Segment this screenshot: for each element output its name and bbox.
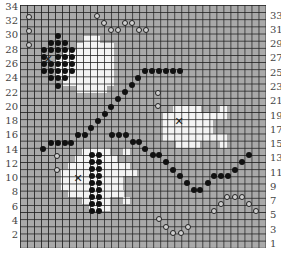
open-circle-marker xyxy=(178,230,184,236)
black-stone xyxy=(96,166,102,172)
x-mark-icon: ✕ xyxy=(175,117,184,126)
black-stone xyxy=(62,47,68,53)
right-row-label: 11 xyxy=(270,168,281,178)
black-stone xyxy=(62,40,68,46)
left-row-label: 22 xyxy=(2,88,18,98)
open-circle-marker xyxy=(218,201,224,207)
open-circle-marker xyxy=(143,27,149,33)
open-circle-marker xyxy=(54,167,60,173)
black-stone xyxy=(89,208,95,214)
right-row-label: 29 xyxy=(270,39,281,49)
black-stone xyxy=(88,125,94,131)
black-stone xyxy=(55,47,61,53)
open-circle-marker xyxy=(232,194,238,200)
open-circle-marker xyxy=(211,208,217,214)
black-stone xyxy=(96,194,102,200)
black-stone xyxy=(96,180,102,186)
black-stone xyxy=(149,68,155,74)
right-row-label: 27 xyxy=(270,53,281,63)
black-stone xyxy=(41,68,47,74)
black-stone xyxy=(68,140,74,146)
black-stone xyxy=(116,132,122,138)
open-circle-marker xyxy=(122,20,128,26)
black-stone xyxy=(96,159,102,165)
left-row-label: 16 xyxy=(2,130,18,140)
left-row-label: 30 xyxy=(2,30,18,40)
black-stone xyxy=(122,89,128,95)
open-circle-marker xyxy=(156,216,162,222)
black-stone xyxy=(184,180,190,186)
right-row-label: 17 xyxy=(270,125,281,135)
black-stone xyxy=(69,54,75,60)
black-stone xyxy=(156,152,162,158)
black-stone xyxy=(55,61,61,67)
right-row-label: 25 xyxy=(270,68,281,78)
left-row-label: 12 xyxy=(2,159,18,169)
black-stone xyxy=(177,173,183,179)
x-mark-icon: ✕ xyxy=(44,55,53,64)
black-stone xyxy=(239,159,245,165)
black-stone xyxy=(62,54,68,60)
black-stone xyxy=(205,180,211,186)
black-stone xyxy=(75,132,81,138)
black-stone xyxy=(96,208,102,214)
black-stone xyxy=(102,111,108,117)
black-stone xyxy=(96,173,102,179)
left-row-label: 32 xyxy=(2,16,18,26)
black-stone xyxy=(123,132,129,138)
x-mark-icon: ✕ xyxy=(74,174,83,183)
black-stone xyxy=(48,68,54,74)
black-stone xyxy=(109,132,115,138)
open-circle-marker xyxy=(155,103,161,109)
open-circle-marker xyxy=(26,42,32,48)
open-circle-marker xyxy=(253,208,259,214)
black-stone xyxy=(55,140,61,146)
black-stone xyxy=(69,47,75,53)
black-stone xyxy=(142,68,148,74)
open-circle-marker xyxy=(163,224,169,230)
left-row-label: 2 xyxy=(2,230,18,240)
open-circle-marker xyxy=(101,20,107,26)
right-row-label: 3 xyxy=(270,225,281,235)
right-row-label: 19 xyxy=(270,111,281,121)
black-stone xyxy=(96,187,102,193)
black-stone xyxy=(218,173,224,179)
black-stone xyxy=(82,132,88,138)
black-stone xyxy=(69,61,75,67)
black-stone xyxy=(40,146,46,152)
right-row-label: 21 xyxy=(270,96,281,106)
black-stone xyxy=(142,146,148,152)
black-stone xyxy=(48,40,54,46)
black-stone xyxy=(170,167,176,173)
black-stone xyxy=(55,68,61,74)
open-circle-marker xyxy=(26,14,32,20)
right-row-label: 31 xyxy=(270,25,281,35)
open-circle-marker xyxy=(54,153,60,159)
right-row-label: 5 xyxy=(270,210,281,220)
left-row-label: 8 xyxy=(2,187,18,197)
black-stone xyxy=(89,173,95,179)
black-stone xyxy=(62,75,68,81)
open-circle-marker xyxy=(94,13,100,19)
black-stone xyxy=(170,68,176,74)
black-stone xyxy=(115,96,121,102)
black-stone xyxy=(62,68,68,74)
black-stone xyxy=(55,33,61,39)
open-circle-marker xyxy=(224,194,230,200)
black-stone xyxy=(69,68,75,74)
left-row-label: 26 xyxy=(2,59,18,69)
black-stone xyxy=(129,82,135,88)
right-row-label: 15 xyxy=(270,139,281,149)
black-stone xyxy=(89,180,95,186)
right-row-label: 9 xyxy=(270,182,281,192)
open-circle-marker xyxy=(185,224,191,230)
black-stone xyxy=(89,166,95,172)
left-row-label: 14 xyxy=(2,145,18,155)
open-circle-marker xyxy=(115,27,121,33)
black-stone xyxy=(136,139,142,145)
black-stone xyxy=(89,152,95,158)
left-row-label: 34 xyxy=(2,2,18,12)
right-row-label: 1 xyxy=(270,239,281,249)
left-row-label: 18 xyxy=(2,116,18,126)
black-stone xyxy=(55,75,61,81)
